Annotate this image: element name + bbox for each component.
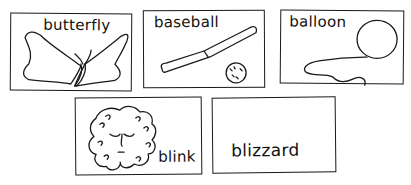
card-baseball: baseball — [143, 10, 265, 89]
card-butterfly: butterfly — [10, 13, 133, 92]
word-label: baseball — [154, 13, 219, 31]
word-label: butterfly — [43, 16, 110, 34]
word-label: blizzard — [231, 140, 300, 161]
word-label: blink — [158, 148, 196, 166]
card-blizzard: blizzard — [212, 96, 337, 173]
word-label: balloon — [289, 13, 346, 31]
card-balloon: balloon — [280, 9, 405, 84]
card-blink: blink — [75, 96, 203, 175]
